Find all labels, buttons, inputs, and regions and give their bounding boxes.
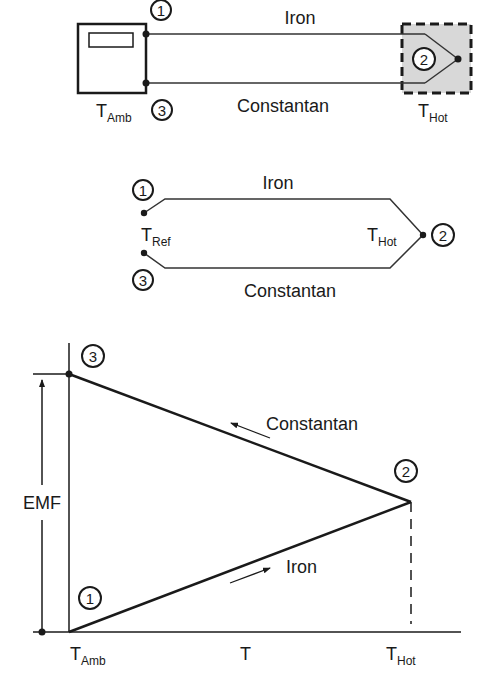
ref-junction-1-dot <box>141 210 147 216</box>
ref-junction-3-dot <box>141 250 147 256</box>
iron-line <box>69 502 411 632</box>
t-amb-label: TAmb <box>96 101 132 125</box>
top-circuit: 1 3 2 Iron Constantan TAmb THot <box>78 0 471 125</box>
x-axis-label: T <box>240 644 251 664</box>
iron-label: Iron <box>262 173 293 193</box>
emf-label: EMF <box>23 493 61 513</box>
node-1-label: 1 <box>139 182 147 199</box>
emf-bottom-dot <box>39 629 46 636</box>
node-1-label: 1 <box>157 2 165 19</box>
node-2-label: 2 <box>402 463 410 480</box>
iron-label: Iron <box>286 557 317 577</box>
point-3-dot <box>66 371 73 378</box>
meter-display <box>89 33 133 47</box>
middle-circuit: 1 3 2 Iron Constantan TRef THot <box>133 173 454 301</box>
x-start-label: TAmb <box>70 644 106 668</box>
terminal-1-dot <box>143 31 150 38</box>
terminal-3-dot <box>143 80 150 87</box>
node-3-label: 3 <box>139 272 147 289</box>
iron-direction-arrow <box>230 568 270 583</box>
node-2-label: 2 <box>439 227 447 244</box>
x-end-label: THot <box>386 644 416 668</box>
constantan-label: Constantan <box>244 281 336 301</box>
node-3-label: 3 <box>158 102 166 119</box>
constantan-label: Constantan <box>237 96 329 116</box>
node-3-label: 3 <box>89 348 97 365</box>
hot-junction-dot <box>420 232 426 238</box>
t-ref-label: TRef <box>141 225 171 249</box>
thermocouple-diagram: 1 3 2 Iron Constantan TAmb THot 1 3 2 Ir… <box>0 0 497 685</box>
constantan-label: Constantan <box>266 414 358 434</box>
t-hot-label: THot <box>418 101 448 125</box>
iron-wire <box>144 199 423 235</box>
node-2-label: 2 <box>420 51 428 68</box>
node-1-label: 1 <box>86 590 94 607</box>
emf-graph: EMF Constantan Iron 3 2 1 TAmb T THot <box>23 343 461 668</box>
t-hot-label: THot <box>367 225 397 249</box>
hot-junction-dot <box>455 56 462 63</box>
iron-label: Iron <box>284 8 315 28</box>
constantan-line <box>69 374 411 502</box>
